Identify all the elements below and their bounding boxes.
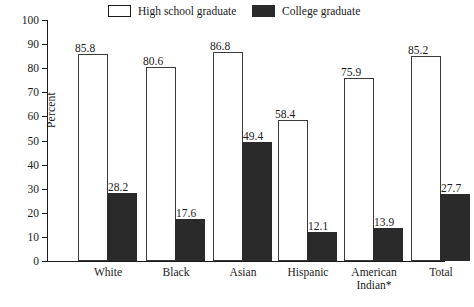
bar-value-label: 17.6	[176, 207, 196, 219]
bar-value-label: 75.9	[341, 66, 361, 78]
bar-value-label: 86.8	[210, 40, 230, 52]
y-axis-tick: 0	[42, 261, 47, 262]
legend-label: High school graduate	[138, 5, 236, 17]
bar-light: 85.8	[78, 54, 108, 261]
y-axis-tick: 10	[42, 237, 47, 238]
figure-caption	[22, 299, 452, 307]
bar-group: 85.828.2	[78, 20, 138, 261]
y-axis-tick-label: 30	[9, 183, 39, 195]
y-axis-tick: 40	[42, 165, 47, 166]
bar-value-label: 27.7	[441, 182, 461, 194]
bar-value-label: 85.2	[408, 44, 428, 56]
x-axis-line	[47, 261, 445, 262]
legend-entry-1: High school graduate	[108, 2, 236, 20]
bar-dark: 12.1	[307, 232, 337, 261]
y-axis-tick: 100	[42, 20, 47, 21]
y-axis-tick-label: 60	[9, 110, 39, 122]
y-axis-tick-label: 0	[9, 255, 39, 267]
legend-label: College graduate	[282, 5, 360, 17]
y-axis-tick: 50	[42, 141, 47, 142]
y-axis-tick: 80	[42, 68, 47, 69]
bar-light: 58.4	[278, 120, 308, 261]
bar-group: 86.849.4	[213, 20, 273, 261]
bar-light: 86.8	[213, 52, 243, 261]
bar-dark: 27.7	[440, 194, 470, 261]
y-axis-tick-label: 40	[9, 159, 39, 171]
bar-value-label: 28.2	[108, 181, 128, 193]
legend-entry-2: College graduate	[252, 2, 360, 20]
y-axis-line	[47, 20, 48, 262]
bar-light: 75.9	[344, 78, 374, 261]
bar-light: 85.2	[411, 56, 441, 261]
bar-value-label: 80.6	[143, 55, 163, 67]
bar-dark: 13.9	[373, 228, 403, 261]
chart-legend: High school graduateCollege graduate	[0, 2, 458, 22]
bar-dark: 28.2	[107, 193, 137, 261]
bar-group: 58.412.1	[278, 20, 338, 261]
bar-value-label: 85.8	[75, 42, 95, 54]
legend-swatch-dark	[252, 5, 275, 17]
y-axis-tick-label: 20	[9, 207, 39, 219]
y-axis-tick-label: 100	[9, 14, 39, 26]
legend-swatch-light	[108, 5, 131, 17]
y-axis-tick-label: 70	[9, 86, 39, 98]
y-axis-tick-label: 50	[9, 135, 39, 147]
bar-value-label: 58.4	[275, 108, 295, 120]
y-axis-title: Percent	[45, 92, 57, 128]
y-axis-tick: 90	[42, 44, 47, 45]
bar-light: 80.6	[146, 67, 176, 261]
y-axis-tick-label: 10	[9, 231, 39, 243]
bar-value-label: 49.4	[243, 130, 263, 142]
y-axis-tick: 60	[42, 116, 47, 117]
bar-dark: 49.4	[242, 142, 272, 261]
y-axis-tick: 20	[42, 213, 47, 214]
bar-group: 75.913.9	[344, 20, 404, 261]
x-axis-category-label: Total	[396, 266, 474, 279]
bar-group: 80.617.6	[146, 20, 206, 261]
y-axis-tick: 70	[42, 92, 47, 93]
y-axis-tick-label: 90	[9, 38, 39, 50]
bar-dark: 17.6	[175, 219, 205, 261]
y-axis-tick: 30	[42, 189, 47, 190]
bar-group: 85.227.7	[411, 20, 471, 261]
bar-value-label: 12.1	[308, 220, 328, 232]
bar-value-label: 13.9	[374, 216, 394, 228]
plot-area: Percent 100908070605040302010085.828.2Wh…	[47, 20, 445, 262]
y-axis-tick-label: 80	[9, 62, 39, 74]
